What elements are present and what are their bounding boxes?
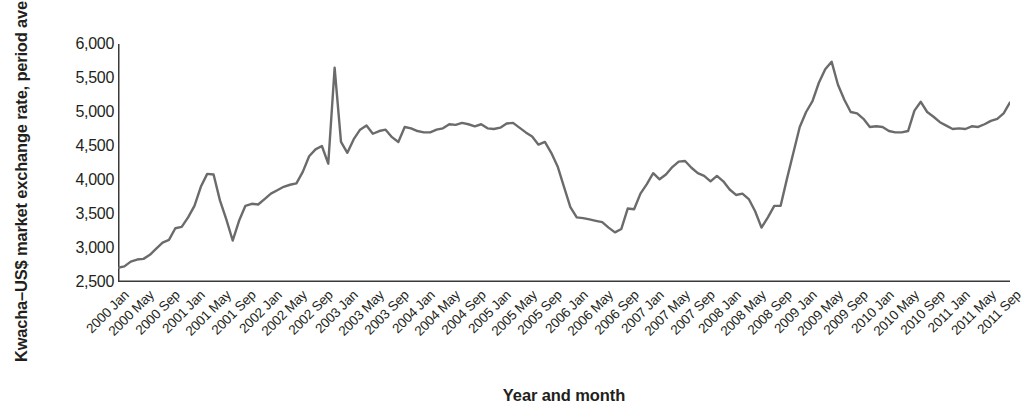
x-axis-tick-label: 2002 May [260,288,310,338]
x-axis-tick-label: 2004 Sep [439,288,488,337]
x-axis-tick-label: 2009 Jan [772,288,820,336]
x-axis-tick-label: 2002 Sep [286,288,335,337]
x-axis-tick-label: 2006 May [565,288,615,338]
x-axis-tick-label: 2008 Jan [696,288,744,336]
x-axis-tick-label: 2009 Sep [821,288,870,337]
x-axis-tick-label: 2003 May [336,288,386,338]
x-axis-tick-label: 2007 Sep [668,288,717,337]
x-axis-tick-label: 2000 Sep [133,288,182,337]
x-axis-tick-label: 2001 May [183,288,233,338]
x-axis-tick-label: 2007 Jan [619,288,667,336]
x-axis-tick-label: 2006 Sep [592,288,641,337]
x-axis-tick-label: 2002 Jan [237,288,285,336]
data-series-line [118,62,1010,268]
y-axis-tick-label: 2,500 [52,274,114,290]
x-axis-tick-label: 2001 Sep [210,288,259,337]
x-axis-tick-label: 2005 May [489,288,539,338]
y-axis-tick-label: 4,500 [52,138,114,154]
x-axis-tick-label: 2011 Jan [926,288,973,335]
y-axis-tick-label: 5,000 [52,104,114,120]
y-axis-title-text: Kwacha–US$ market exchange rate, period … [11,0,32,363]
axes [118,44,1010,282]
x-axis-tick-label: 2009 May [795,288,845,338]
y-axis-tick-label: 5,500 [52,70,114,86]
exchange-rate-line-chart: Kwacha–US$ market exchange rate, period … [0,0,1023,411]
plot-area [118,44,1010,282]
y-axis-tick-label: 4,000 [52,172,114,188]
x-axis-tick-label: 2004 Jan [390,288,438,336]
x-axis-tick-label: 2006 Jan [543,288,591,336]
x-axis-tick-label: 2003 Sep [363,288,412,337]
x-axis-tick-label: 2008 Sep [745,288,794,337]
x-axis-tick-label: 2004 May [413,288,463,338]
y-axis-tick-labels: 2,5003,0003,5004,0004,5005,0005,5006,000 [50,0,114,411]
y-axis-title: Kwacha–US$ market exchange rate, period … [0,0,44,330]
x-axis-tick-label: 2010 Jan [848,288,896,336]
x-axis-tick-label: 2008 May [718,288,768,338]
x-axis-tick-label: 2010 Sep [898,288,947,337]
x-axis-tick-label: 2011 May [948,288,998,338]
x-axis-tick-label: 2005 Sep [515,288,564,337]
x-axis-tick-label: 2011 Sep [975,288,1023,337]
x-axis-title: Year and month [118,386,1010,405]
x-axis-tick-label: 2010 May [871,288,921,338]
y-axis-tick-label: 6,000 [52,36,114,52]
x-axis-tick-label: 2007 May [642,288,692,338]
x-axis-tick-label: 2001 Jan [160,288,208,336]
plot-svg [118,44,1010,282]
x-axis-tick-label: 2000 May [107,288,157,338]
x-axis-tick-label: 2003 Jan [313,288,361,336]
y-axis-tick-label: 3,000 [52,240,114,256]
y-axis-tick-label: 3,500 [52,206,114,222]
x-axis-tick-label: 2005 Jan [466,288,514,336]
